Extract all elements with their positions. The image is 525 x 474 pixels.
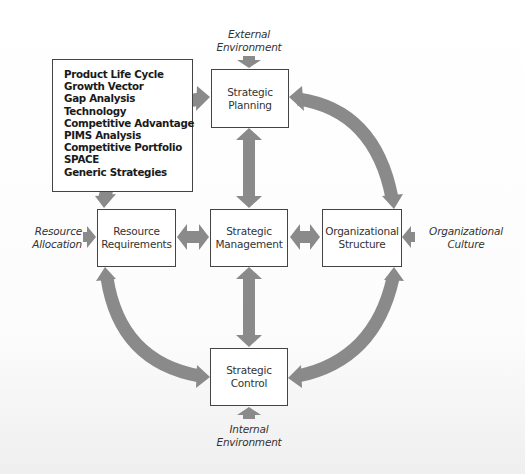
strategic-management-node: Strategic Management (210, 209, 288, 267)
arrow-organizational-culture (402, 226, 415, 248)
label-line1: Internal (209, 423, 289, 436)
tool-item: SPACE (64, 153, 192, 165)
label-line2: Culture (416, 238, 516, 251)
node-label-line2: Planning (227, 99, 273, 112)
strategic-tools-list-box: Product Life Cycle Growth Vector Gap Ana… (52, 59, 193, 192)
node-label-line1: Resource (101, 225, 172, 238)
tool-item: Product Life Cycle (64, 68, 192, 80)
node-label-line1: Strategic (227, 86, 273, 99)
arc-control-resources-arrow (96, 267, 210, 388)
tool-item: Competitive Advantage (64, 117, 192, 129)
label-line1: Resource (22, 225, 82, 238)
external-environment-label: External Environment (209, 28, 289, 54)
tool-item: Growth Vector (64, 80, 192, 92)
node-label-line1: Organizational (325, 225, 399, 238)
internal-environment-label: Internal Environment (209, 423, 289, 449)
node-label-line2: Requirements (101, 238, 172, 251)
arrow-resources-management (177, 224, 209, 250)
node-label-line2: Structure (325, 238, 399, 251)
organizational-structure-node: Organizational Structure (322, 209, 402, 267)
resource-requirements-node: Resource Requirements (97, 209, 176, 267)
strategic-control-node: Strategic Control (210, 348, 288, 406)
label-line2: Allocation (22, 238, 82, 251)
node-label-line1: Strategic (215, 225, 282, 238)
tool-item: Gap Analysis (64, 92, 192, 104)
label-line1: External (209, 28, 289, 41)
arc-organization-control-arrow (288, 267, 404, 388)
strategic-planning-node: Strategic Planning (211, 69, 289, 128)
tool-item: PIMS Analysis (64, 129, 192, 141)
arrow-management-organization (290, 224, 320, 250)
arrow-internal-environment (237, 407, 261, 419)
arc-planning-organization-arrow (289, 86, 403, 209)
strategic-tools-list: Product Life Cycle Growth Vector Gap Ana… (64, 68, 192, 178)
tool-item: Technology (64, 105, 192, 117)
arrow-resource-allocation (83, 226, 96, 248)
resource-allocation-label: Resource Allocation (22, 225, 82, 251)
tool-item: Competitive Portfolio (64, 141, 192, 153)
arrow-management-control (236, 267, 262, 347)
node-label-line2: Management (215, 238, 282, 251)
label-line2: Environment (209, 41, 289, 54)
node-label-line1: Strategic (226, 364, 272, 377)
node-label-line2: Control (226, 377, 272, 390)
organizational-culture-label: Organizational Culture (416, 225, 516, 251)
arrow-external-environment (237, 56, 261, 68)
label-line2: Environment (209, 436, 289, 449)
tool-item: Generic Strategies (64, 166, 192, 178)
label-line1: Organizational (416, 225, 516, 238)
arrow-planning-management (236, 128, 262, 208)
